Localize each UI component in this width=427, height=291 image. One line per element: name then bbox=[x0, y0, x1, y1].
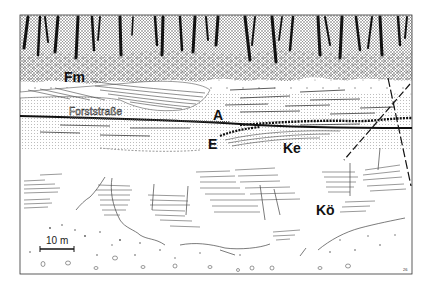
label-e: E bbox=[208, 136, 217, 152]
label-fm: Fm bbox=[64, 69, 85, 85]
label-ke: Ke bbox=[283, 140, 301, 156]
label-ko: Kö bbox=[316, 202, 335, 218]
geological-section-figure: Fm Forststraße A E Ke Kö 10 m 26 bbox=[0, 0, 427, 291]
label-a: A bbox=[213, 107, 223, 123]
label-forest-road: Forststraße bbox=[69, 106, 123, 117]
figure-number: 26 bbox=[403, 267, 408, 272]
scale-label: 10 m bbox=[46, 235, 68, 246]
